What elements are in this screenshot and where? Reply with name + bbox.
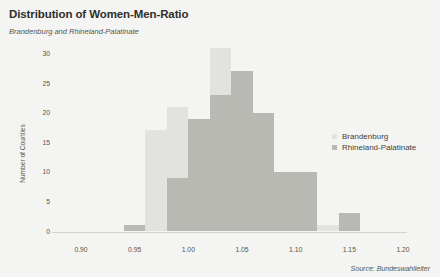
histogram-bar — [188, 119, 209, 231]
histogram-bar — [253, 113, 274, 231]
y-tick-label: 30 — [28, 50, 50, 57]
source-note: Source: Bundeswahlleiter — [351, 265, 430, 272]
histogram-bar — [145, 130, 166, 231]
histogram-bar — [210, 95, 231, 231]
y-tick-label: 5 — [28, 198, 50, 205]
y-tick-label: 20 — [28, 109, 50, 116]
x-tick-label: 1.00 — [168, 246, 208, 253]
x-axis-line — [52, 232, 407, 233]
legend-label: Rhineland-Palatinate — [342, 143, 416, 152]
y-tick-label: 25 — [28, 80, 50, 87]
x-tick-label: 1.15 — [329, 246, 369, 253]
chart-root: Distribution of Women-Men-Ratio Brandenb… — [0, 0, 440, 277]
y-axis-label: Number of Counties — [19, 114, 26, 194]
y-tick-label: 15 — [28, 139, 50, 146]
histogram-bar — [296, 172, 317, 231]
x-tick-label: 0.90 — [61, 246, 101, 253]
y-tick-label: 10 — [28, 168, 50, 175]
histogram-bar — [317, 225, 338, 231]
y-tick-label: 0 — [28, 228, 50, 235]
legend-label: Brandenburg — [342, 132, 388, 141]
x-tick-label: 0.95 — [115, 246, 155, 253]
x-tick-label: 1.10 — [276, 246, 316, 253]
legend-item-brandenburg: Brandenburg — [332, 131, 416, 142]
histogram-bar — [167, 178, 188, 231]
legend-swatch-icon — [332, 145, 337, 150]
histogram-bar — [274, 172, 295, 231]
histogram-bar — [124, 225, 145, 231]
legend-item-rhineland-palatinate: Rhineland-Palatinate — [332, 142, 416, 153]
x-tick-label: 1.05 — [222, 246, 262, 253]
histogram-bar — [231, 71, 252, 231]
chart-legend: Brandenburg Rhineland-Palatinate — [332, 131, 416, 153]
x-tick-label: 1.20 — [383, 246, 423, 253]
histogram-bar — [339, 213, 360, 231]
legend-swatch-icon — [332, 134, 337, 139]
